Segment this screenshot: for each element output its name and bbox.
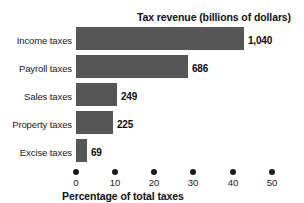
category-label: Excise taxes [20, 147, 72, 158]
category-label: Payroll taxes [19, 63, 72, 74]
x-tick-label: 40 [219, 177, 247, 188]
bar-row: Excise taxes 69 [0, 139, 304, 165]
bar-row: Payroll taxes 686 [0, 55, 304, 81]
bar-chart: Tax revenue (billions of dollars) Income… [0, 0, 304, 203]
bar-value-label: 1,040 [248, 35, 272, 46]
chart-title: Tax revenue (billions of dollars) [126, 11, 302, 23]
bar-value-label: 225 [117, 119, 133, 130]
x-tick-label: 20 [140, 177, 168, 188]
category-label: Sales taxes [24, 91, 72, 102]
bar-value-label: 686 [192, 63, 208, 74]
x-axis: 0 10 20 30 40 50 Percentage of total tax… [0, 167, 304, 203]
x-axis-title: Percentage of total taxes [62, 190, 184, 202]
tick-dot-icon [190, 169, 196, 175]
bar-income-taxes [76, 27, 244, 50]
bar-row: Income taxes 1,040 [0, 27, 304, 53]
x-tick-label: 50 [258, 177, 286, 188]
bar-payroll-taxes [76, 55, 188, 78]
category-label: Property taxes [12, 119, 72, 130]
bar-row: Sales taxes 249 [0, 83, 304, 109]
bar-property-taxes [76, 111, 113, 134]
bar-value-label: 249 [121, 91, 137, 102]
bar-value-label: 69 [91, 147, 102, 158]
tick-dot-icon [112, 169, 118, 175]
tick-dot-icon [230, 169, 236, 175]
category-label: Income taxes [17, 35, 72, 46]
tick-dot-icon [269, 169, 275, 175]
bar-sales-taxes [76, 83, 117, 106]
bar-row: Property taxes 225 [0, 111, 304, 137]
tick-dot-icon [73, 169, 79, 175]
x-tick-label: 10 [101, 177, 129, 188]
x-tick-label: 0 [62, 177, 90, 188]
plot-area: Income taxes 1,040 Payroll taxes 686 Sal… [0, 27, 304, 167]
bar-excise-taxes [76, 139, 87, 162]
tick-dot-icon [151, 169, 157, 175]
x-tick-label: 30 [179, 177, 207, 188]
